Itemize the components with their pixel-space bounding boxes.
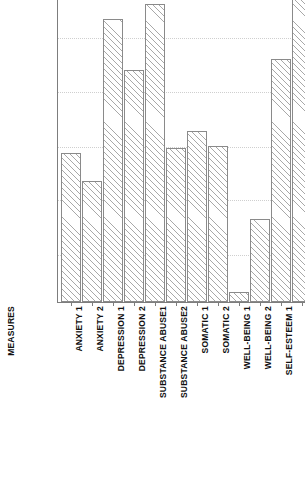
x-axis-label-substance-abuse2: SUBSTANCE ABUSE2 [180, 306, 189, 398]
x-axis-label-anxiety-2: ANXIETY 2 [96, 306, 105, 352]
x-axis-label-depression-1: DEPRESSION 1 [117, 306, 126, 371]
x-axis-label-substance-abuse1: SUBSTANCE ABUSE1 [159, 306, 168, 398]
bar [61, 153, 81, 302]
bar [208, 146, 228, 302]
plot-area [57, 0, 305, 302]
x-axis-title: MEASURES [6, 306, 16, 356]
x-axis-label-somatic-2: SOMATIC 2 [222, 306, 231, 353]
bar [166, 148, 186, 302]
bar [103, 19, 123, 302]
x-axis-label-anxiety-1: ANXIETY 1 [75, 306, 84, 352]
bar-series [57, 0, 305, 302]
bar [145, 4, 165, 302]
x-axis-label-well-being-2: WELL-BEING 2 [264, 306, 273, 369]
bar-chart: ANXIETY 1ANXIETY 2DEPRESSION 1DEPRESSION… [0, 0, 305, 488]
x-axis-category-labels: ANXIETY 1ANXIETY 2DEPRESSION 1DEPRESSION… [57, 306, 305, 486]
x-axis-label-depression-2: DEPRESSION 2 [138, 306, 147, 371]
bar [271, 59, 291, 302]
x-axis-label-well-being-1: WELL-BEING 1 [243, 306, 252, 369]
bar [187, 131, 207, 302]
x-axis-label-self-esteem-1: SELF-ESTEEM 1 [285, 306, 294, 375]
x-axis-label-somatic-1: SOMATIC 1 [201, 306, 210, 353]
bar [124, 70, 144, 302]
bar [229, 292, 249, 302]
bar [82, 181, 102, 302]
bar [250, 219, 270, 302]
bar [292, 0, 305, 302]
y-axis-line [57, 0, 58, 303]
